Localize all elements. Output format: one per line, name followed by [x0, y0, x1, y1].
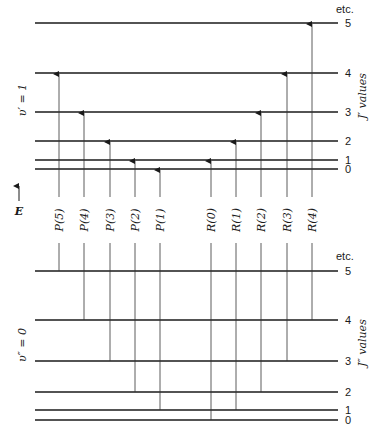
transition-label: P(5) — [53, 209, 66, 233]
transition-p1: P(1) — [154, 170, 167, 410]
transition-label: P(1) — [154, 209, 167, 233]
transition-r4: R(4) — [306, 24, 319, 320]
lower-state-levels: 012345 — [35, 265, 351, 426]
upper-level-label-j3: 3 — [345, 106, 351, 118]
energy-level-diagram: 012345 012345 P(5)P(4)P(3)P(2)P(1)R(0)R(… — [0, 0, 371, 433]
transition-label: P(2) — [129, 209, 142, 233]
transition-label: R(0) — [205, 208, 218, 233]
lower-level-label-j2: 2 — [345, 386, 351, 398]
upper-j-axis-label: J′ values — [356, 73, 369, 121]
upper-state-levels: 012345 — [35, 17, 351, 175]
lower-j-axis-label: J″ values — [356, 319, 369, 369]
upper-level-label-j4: 4 — [345, 67, 351, 79]
upper-etc-label: etc. — [336, 3, 354, 15]
transition-p2: P(2) — [129, 161, 142, 392]
lower-level-label-j3: 3 — [345, 355, 351, 367]
lower-vibrational-label: υ″ = 0 — [16, 328, 29, 362]
transition-label: P(4) — [78, 209, 91, 233]
transition-label: R(1) — [230, 208, 243, 233]
upper-level-label-j1: 1 — [345, 154, 351, 166]
transition-p3: P(3) — [104, 142, 117, 361]
transition-r1: R(1) — [230, 142, 243, 410]
upper-level-label-j2: 2 — [345, 135, 351, 147]
transition-r0: R(0) — [205, 161, 218, 420]
transition-label: R(4) — [306, 208, 319, 233]
transition-r2: R(2) — [255, 113, 268, 392]
transition-label: R(3) — [281, 208, 294, 233]
lower-level-label-j1: 1 — [345, 404, 351, 416]
lower-level-label-j5: 5 — [345, 265, 351, 277]
transition-p5: P(5) — [53, 74, 66, 271]
lower-level-label-j4: 4 — [345, 314, 351, 326]
energy-axis-label: E — [14, 205, 24, 218]
transition-p4: P(4) — [78, 113, 91, 320]
energy-axis: E — [14, 186, 24, 218]
transition-label: R(2) — [255, 208, 268, 233]
transition-label: P(3) — [104, 209, 117, 233]
transition-r3: R(3) — [281, 74, 294, 361]
upper-vibrational-label: υ′ = 1 — [16, 84, 29, 116]
lower-etc-label: etc. — [336, 250, 354, 262]
upper-level-label-j5: 5 — [345, 17, 351, 29]
